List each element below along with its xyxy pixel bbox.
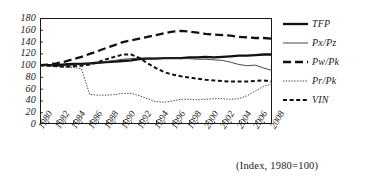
y-tick-label: 20	[26, 107, 36, 117]
series-line-prpk	[40, 65, 272, 102]
legend-swatch-icon	[283, 38, 308, 48]
chart-caption: (Index, 1980=100)	[236, 160, 318, 171]
y-tick-label: 60	[26, 84, 36, 94]
chart-figure: 020406080100120140160180 198019821984198…	[0, 0, 376, 183]
legend-label: Px/Pz	[312, 37, 336, 48]
legend-item-prpk[interactable]: Pr/Pk	[283, 71, 376, 90]
y-tick-label: 180	[20, 13, 36, 23]
y-tick-label: 0	[31, 119, 36, 129]
legend-item-pwpk[interactable]: Pw/Pk	[283, 52, 376, 71]
legend-label: VIN	[312, 94, 329, 105]
y-tick-label: 140	[20, 37, 36, 47]
y-tick-label: 40	[26, 95, 36, 105]
legend-item-pxpz[interactable]: Px/Pz	[283, 33, 376, 52]
legend-item-vin[interactable]: VIN	[283, 90, 376, 109]
chart-legend: TFPPx/PzPw/PkPr/PkVIN	[283, 14, 376, 109]
legend-swatch-icon	[283, 95, 308, 105]
y-tick-label: 100	[20, 60, 36, 70]
y-axis: 020406080100120140160180	[0, 18, 36, 124]
series-line-tfp	[40, 55, 272, 66]
y-tick-label: 160	[20, 25, 36, 35]
legend-label: Pr/Pk	[312, 75, 336, 86]
y-tick-label: 120	[20, 48, 36, 58]
plot-area	[40, 18, 272, 124]
legend-label: TFP	[312, 18, 330, 29]
chart-canvas	[40, 18, 272, 124]
legend-label: Pw/Pk	[312, 56, 339, 67]
legend-swatch-icon	[283, 57, 308, 67]
legend-item-tfp[interactable]: TFP	[283, 14, 376, 33]
legend-swatch-icon	[283, 76, 308, 86]
legend-swatch-icon	[283, 19, 308, 29]
series-line-pwpk	[40, 31, 272, 65]
y-tick-label: 80	[26, 72, 36, 82]
